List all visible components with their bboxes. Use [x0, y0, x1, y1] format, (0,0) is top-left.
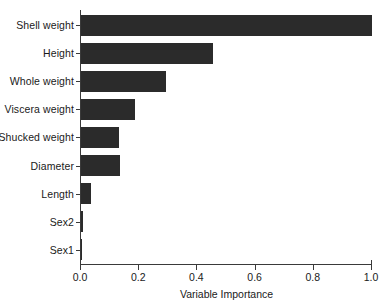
x-axis-tick-label: 0.8 — [305, 271, 320, 283]
y-axis-label: Shell weight — [16, 19, 74, 31]
y-axis-label: Height — [43, 47, 74, 59]
y-axis-label-slot: Viscera weight — [0, 95, 74, 123]
x-axis-tick — [255, 265, 256, 270]
bar — [81, 211, 83, 232]
y-axis-label-slot: Whole weight — [0, 67, 74, 95]
y-axis-label-slot: Sex1 — [0, 236, 74, 264]
variable-importance-chart: Shell weightHeightWhole weightViscera we… — [0, 0, 385, 308]
bar — [81, 99, 135, 120]
y-axis-label: Whole weight — [10, 75, 74, 87]
bar-slot — [81, 95, 372, 123]
y-axis-label: Shucked weight — [0, 131, 74, 143]
bar — [81, 15, 372, 36]
bar — [81, 71, 166, 92]
y-axis-label: Sex1 — [50, 244, 74, 256]
bar-slot — [81, 39, 372, 67]
bar-slot — [81, 151, 372, 179]
bar-slot — [81, 67, 372, 95]
x-axis-tick — [138, 265, 139, 270]
bar-slot — [81, 180, 372, 208]
bar-series — [81, 11, 372, 264]
bar-slot — [81, 11, 372, 39]
x-axis-tick — [371, 265, 372, 270]
x-axis-tick-label: 0.0 — [73, 271, 88, 283]
bar — [81, 43, 213, 64]
x-axis-tick — [313, 265, 314, 270]
y-axis-label-slot: Shucked weight — [0, 123, 74, 151]
y-axis-label: Diameter — [31, 160, 74, 172]
x-axis-title: Variable Importance — [80, 288, 373, 300]
x-axis-tick-label: 0.6 — [247, 271, 262, 283]
bar — [81, 183, 91, 204]
y-axis-label-slot: Shell weight — [0, 11, 74, 39]
x-axis-tick-label: 0.4 — [189, 271, 204, 283]
x-axis-tick — [80, 265, 81, 270]
y-axis-label-slot: Length — [0, 180, 74, 208]
bar-slot — [81, 236, 372, 264]
bar — [81, 239, 82, 260]
y-axis-category-labels: Shell weightHeightWhole weightViscera we… — [0, 11, 74, 264]
y-axis-label-slot: Diameter — [0, 151, 74, 179]
y-axis-label-slot: Height — [0, 39, 74, 67]
y-axis-label: Length — [41, 188, 74, 200]
bar-slot — [81, 208, 372, 236]
bar — [81, 127, 119, 148]
bar — [81, 155, 120, 176]
x-axis-tick-label: 1.0 — [364, 271, 379, 283]
x-axis-tick-labels: 0.00.20.40.60.81.0 — [80, 271, 373, 285]
bar-slot — [81, 123, 372, 151]
y-axis-label-slot: Sex2 — [0, 208, 74, 236]
y-axis-label: Viscera weight — [5, 103, 75, 115]
x-axis-tick-label: 0.2 — [131, 271, 146, 283]
x-axis-tick — [196, 265, 197, 270]
y-axis-label: Sex2 — [50, 216, 74, 228]
